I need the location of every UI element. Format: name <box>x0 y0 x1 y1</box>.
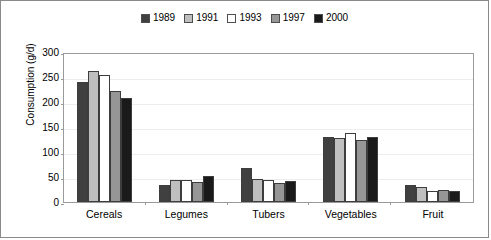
bar-group <box>64 54 146 202</box>
x-axis-tick-label: Tubers <box>227 208 309 220</box>
x-axis-tick-mark <box>145 202 146 205</box>
y-axis-tick-label: 300 <box>23 48 59 58</box>
bar <box>88 71 99 202</box>
bar <box>192 182 203 203</box>
bar <box>416 187 427 203</box>
bar <box>274 183 285 202</box>
bar <box>159 185 170 202</box>
bar <box>438 190 449 203</box>
plot-area <box>63 53 474 203</box>
legend-swatch-icon <box>141 14 150 23</box>
legend-label: 2000 <box>326 13 348 23</box>
bar-group <box>146 54 228 202</box>
bar <box>203 176 214 203</box>
y-axis-tick-label: 0 <box>23 198 59 208</box>
x-axis-tick-label: Cereals <box>63 208 145 220</box>
bar <box>367 137 378 202</box>
chart-figure: 19891991199319972000 Consumption (g/d) 3… <box>0 0 489 238</box>
bar-group <box>391 54 473 202</box>
y-axis-tick-mark <box>61 204 64 205</box>
bar <box>449 191 460 202</box>
bar <box>110 91 121 202</box>
legend-entry: 2000 <box>314 13 348 23</box>
legend-entry: 1989 <box>141 13 175 23</box>
chart-legend: 19891991199319972000 <box>1 13 488 23</box>
bar <box>99 75 110 203</box>
bar <box>334 138 345 202</box>
bar <box>170 180 181 203</box>
y-axis-tick-labels: 300250200150100500 <box>23 48 59 204</box>
y-axis-tick-label: 50 <box>23 173 59 183</box>
y-axis-tick-label: 200 <box>23 98 59 108</box>
legend-entry: 1993 <box>227 13 261 23</box>
y-axis-tick-label: 250 <box>23 73 59 83</box>
legend-swatch-icon <box>271 14 280 23</box>
legend-swatch-icon <box>184 14 193 23</box>
legend-label: 1997 <box>283 13 305 23</box>
bar <box>263 180 274 202</box>
x-axis-tick-mark <box>390 202 391 205</box>
x-axis-tick-label: Vegetables <box>310 208 392 220</box>
bar-groups <box>64 54 473 202</box>
legend-label: 1989 <box>153 13 175 23</box>
bar <box>405 185 416 202</box>
x-axis-tick-label: Fruit <box>392 208 474 220</box>
bar <box>356 140 367 203</box>
legend-label: 1991 <box>196 13 218 23</box>
y-axis-tick-label: 150 <box>23 123 59 133</box>
bar <box>427 191 438 202</box>
bar <box>285 181 296 203</box>
x-axis-tick-labels: CerealsLegumesTubersVegetablesFruit <box>63 208 474 220</box>
bar <box>323 137 334 202</box>
legend-entry: 1991 <box>184 13 218 23</box>
bar <box>121 98 132 202</box>
bar-group <box>309 54 391 202</box>
bar <box>345 133 356 202</box>
x-axis-tick-mark <box>308 202 309 205</box>
bar <box>77 82 88 202</box>
bar-group <box>228 54 310 202</box>
x-axis-tick-mark <box>227 202 228 205</box>
y-axis-tick-label: 100 <box>23 148 59 158</box>
legend-label: 1993 <box>239 13 261 23</box>
legend-swatch-icon <box>314 14 323 23</box>
x-axis-tick-label: Legumes <box>145 208 227 220</box>
legend-swatch-icon <box>227 14 236 23</box>
bar <box>241 168 252 202</box>
legend-entry: 1997 <box>271 13 305 23</box>
bar <box>181 180 192 203</box>
bar <box>252 179 263 202</box>
